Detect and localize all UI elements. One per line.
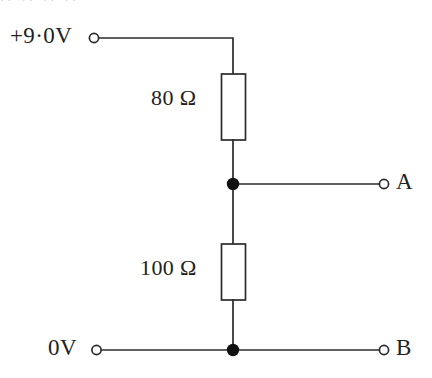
supply-terminal-circle[interactable]: [89, 33, 98, 42]
node-b-junction-dot: [227, 344, 239, 356]
resistor-80-ohm-label: 80 Ω: [151, 87, 196, 109]
output-terminal-a-label: A: [396, 170, 413, 193]
output-terminal-b-circle[interactable]: [379, 345, 388, 354]
resistor-100-ohm-body: [222, 244, 246, 300]
circuit-schematic-svg: [0, 0, 432, 378]
circuit-diagram-figure: ıı ıı ıı ıı: [0, 0, 432, 378]
output-terminal-b-label: B: [396, 336, 412, 359]
node-a-junction-dot: [227, 178, 239, 190]
resistor-80-ohm-body: [222, 74, 246, 140]
ground-voltage-label: 0V: [48, 336, 77, 359]
wire-supply-to-r1: [99, 38, 233, 74]
resistor-100-ohm-label: 100 Ω: [140, 257, 197, 279]
output-terminal-a-circle[interactable]: [379, 179, 388, 188]
ground-terminal-circle[interactable]: [92, 345, 101, 354]
supply-voltage-label: +9·0V: [10, 24, 72, 47]
